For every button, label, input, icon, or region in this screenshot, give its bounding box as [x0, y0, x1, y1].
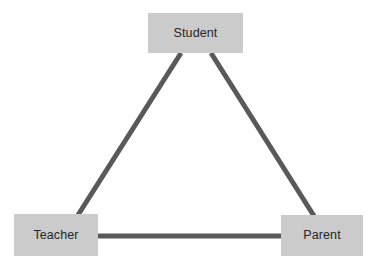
node-student-label: Student	[174, 27, 218, 40]
diagram-canvas: Student Teacher Parent	[0, 0, 377, 268]
edge-student-parent	[211, 53, 314, 216]
node-parent-label: Parent	[303, 229, 340, 242]
node-parent[interactable]: Parent	[281, 215, 363, 256]
node-teacher[interactable]: Teacher	[14, 214, 98, 256]
node-student[interactable]: Student	[148, 13, 243, 53]
node-teacher-label: Teacher	[33, 229, 78, 242]
edge-student-teacher	[78, 53, 181, 215]
